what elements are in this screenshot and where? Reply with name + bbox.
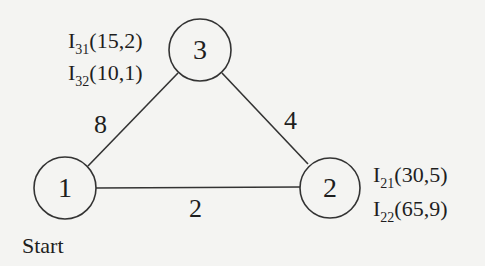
- node-3-label: 3: [180, 36, 220, 64]
- start-caption: Start: [22, 235, 64, 257]
- edge-1-2-weight: 2: [189, 196, 202, 222]
- node-2-annotation-2: I22(65,9): [373, 198, 447, 220]
- edge-3-2-weight: 4: [284, 108, 297, 134]
- node-3-annotation-1: I31(15,2): [68, 30, 142, 52]
- node-2-annotation-1: I21(30,5): [373, 164, 447, 186]
- edge-1-2: [96, 187, 300, 188]
- node-1-label: 1: [45, 174, 85, 202]
- edge-1-3-weight: 8: [94, 112, 107, 138]
- node-2-label: 2: [310, 174, 350, 202]
- node-3-annotation-2: I32(10,1): [68, 62, 142, 84]
